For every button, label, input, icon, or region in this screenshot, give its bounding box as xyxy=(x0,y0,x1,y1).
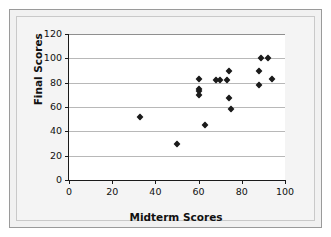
gridline-y-120 xyxy=(69,34,285,35)
data-point xyxy=(264,55,271,62)
data-point xyxy=(268,75,275,82)
plot-area: 020406080100120020406080100 xyxy=(68,34,285,181)
x-tick-label: 80 xyxy=(236,187,248,197)
y-tick-mark xyxy=(65,83,69,84)
data-point xyxy=(195,75,202,82)
chart-canvas: Final Scores 020406080100120020406080100… xyxy=(16,16,315,221)
gridline-y-40 xyxy=(69,131,285,132)
x-axis-title: Midterm Scores xyxy=(68,212,284,223)
y-tick-label: 20 xyxy=(50,151,62,161)
gridline-y-60 xyxy=(69,107,285,108)
y-tick-mark xyxy=(65,131,69,132)
data-point xyxy=(225,95,232,102)
y-tick-mark xyxy=(65,156,69,157)
y-axis-title: Final Scores xyxy=(33,14,44,124)
data-point xyxy=(258,55,265,62)
y-tick-label: 100 xyxy=(44,54,62,64)
data-point xyxy=(202,122,209,129)
x-tick-label: 0 xyxy=(66,187,72,197)
y-tick-label: 40 xyxy=(50,127,62,137)
x-tick-mark xyxy=(112,180,113,184)
x-tick-mark xyxy=(155,180,156,184)
y-tick-label: 60 xyxy=(50,102,62,112)
data-point xyxy=(137,113,144,120)
x-tick-mark xyxy=(242,180,243,184)
data-point xyxy=(173,140,180,147)
y-tick-mark xyxy=(65,34,69,35)
data-point xyxy=(225,67,232,74)
data-point xyxy=(227,106,234,113)
x-tick-label: 100 xyxy=(276,187,294,197)
y-tick-mark xyxy=(65,107,69,108)
y-tick-mark xyxy=(65,58,69,59)
y-tick-label: 80 xyxy=(50,78,62,88)
x-tick-mark xyxy=(199,180,200,184)
gridline-y-20 xyxy=(69,156,285,157)
gridline-y-80 xyxy=(69,83,285,84)
x-tick-mark xyxy=(285,180,286,184)
x-tick-label: 40 xyxy=(149,187,161,197)
x-tick-label: 20 xyxy=(106,187,118,197)
x-tick-label: 60 xyxy=(193,187,205,197)
gridline-y-100 xyxy=(69,58,285,59)
scatter-plot-screenshot: Final Scores 020406080100120020406080100… xyxy=(0,0,331,237)
y-tick-label: 120 xyxy=(44,29,62,39)
x-tick-mark xyxy=(69,180,70,184)
y-tick-label: 0 xyxy=(56,175,62,185)
data-point xyxy=(256,67,263,74)
